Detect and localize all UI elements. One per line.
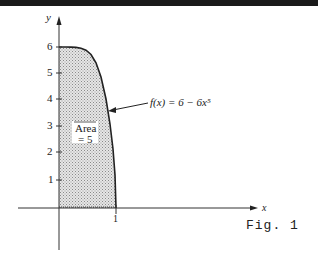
x-tick-1: 1	[113, 213, 118, 224]
y-tick-5: 5	[47, 66, 53, 78]
y-axis-arrow	[57, 16, 62, 25]
figure-caption: Fig. 1	[246, 218, 299, 233]
area-label-line2: = 5	[78, 133, 92, 145]
x-axis-label: x	[262, 202, 266, 213]
label-pointer	[113, 103, 148, 110]
x-axis-arrow	[250, 206, 258, 211]
y-tick-3: 3	[47, 119, 53, 131]
function-label: f(x) = 6 − 6x⁵	[150, 96, 211, 108]
y-tick-4: 4	[47, 92, 53, 104]
y-axis-label: y	[46, 11, 51, 23]
y-tick-2: 2	[47, 145, 53, 157]
y-tick-6: 6	[47, 40, 53, 52]
y-tick-1: 1	[48, 173, 54, 185]
